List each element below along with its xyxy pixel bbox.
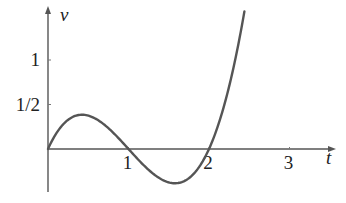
y-tick-label: 1	[31, 49, 41, 70]
x-tick-label: 3	[284, 152, 294, 173]
y-axis-label: v	[60, 4, 69, 25]
x-tick-label: 2	[203, 152, 213, 173]
y-axis-arrow-icon	[45, 6, 51, 14]
tick-marks: 1231/21	[16, 49, 294, 173]
velocity-curve	[48, 11, 244, 183]
x-tick-label: 1	[123, 152, 133, 173]
x-axis-label: t	[326, 147, 332, 168]
velocity-plot: 1231/21 t v	[0, 0, 346, 203]
y-tick-label: 1/2	[16, 94, 40, 115]
